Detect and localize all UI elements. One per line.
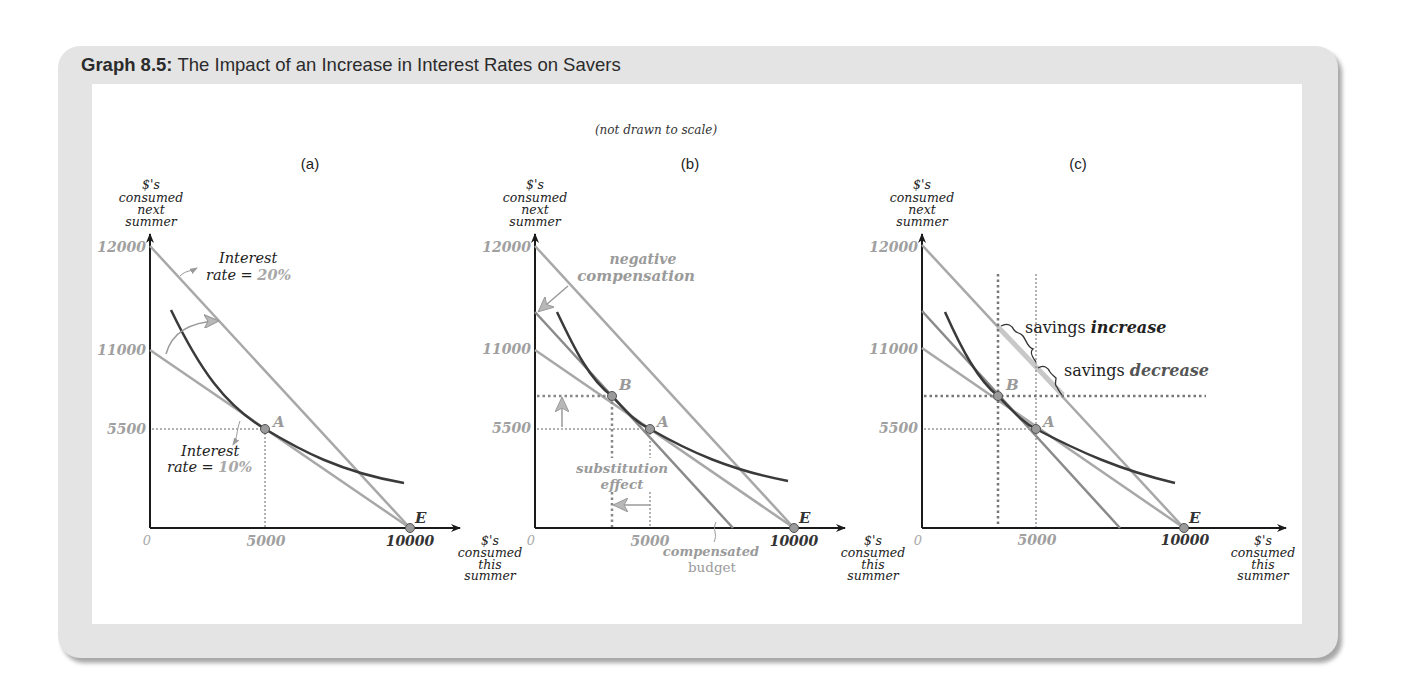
- y-tick: 12000: [97, 239, 146, 255]
- budget-line-10pct: [535, 350, 794, 528]
- annotation-value: 10%: [218, 458, 252, 475]
- leader-line: [180, 268, 197, 276]
- point-e: [406, 524, 415, 533]
- y-tick: 5500: [107, 421, 146, 437]
- y-tick: 11000: [482, 341, 531, 357]
- annotation-substitution: substitution: [576, 460, 668, 476]
- annotation-prefix: savings: [1064, 361, 1130, 380]
- y-axis-label-line: summer: [896, 214, 949, 229]
- point-b-label: B: [618, 376, 632, 394]
- annotation-word: decrease: [1130, 361, 1209, 380]
- point-b: [994, 392, 1003, 401]
- y-tick: 5500: [879, 420, 918, 436]
- not-to-scale-note: (not drawn to scale): [595, 123, 717, 137]
- budget-line-20pct: [150, 246, 410, 528]
- leader-line: [233, 421, 240, 445]
- budget-line-20pct: [535, 246, 794, 528]
- annotation-effect: effect: [601, 476, 645, 492]
- point-a-label: A: [1041, 413, 1055, 431]
- annotation-budget: budget: [688, 559, 737, 575]
- origin-label: 0: [527, 533, 535, 548]
- point-a-label: A: [655, 413, 669, 431]
- origin-label: 0: [143, 533, 151, 548]
- annotation-savings-increase: savings increase: [1025, 318, 1166, 337]
- annotation-rate-10-line1: Interest: [180, 443, 239, 459]
- panel-c: (c) $'s consumed next summer 12000 11000…: [869, 155, 1295, 583]
- x-tick: 5000: [247, 533, 286, 549]
- annotation-rate-20-line1: Interest: [218, 250, 277, 266]
- annotation-negative: negative: [610, 251, 677, 267]
- y-tick: 11000: [97, 342, 146, 358]
- annotation-word: increase: [1091, 318, 1167, 337]
- panel-a: (a) $'s consumed next summer 12000 11000…: [97, 155, 522, 583]
- y-tick: 12000: [869, 239, 918, 255]
- point-b: [608, 392, 617, 401]
- x-tick: 10000: [386, 533, 435, 549]
- point-a: [1032, 425, 1041, 434]
- annotation-prefix: rate =: [206, 267, 257, 283]
- annotation-value: 20%: [256, 266, 291, 283]
- point-e-label: E: [798, 509, 811, 527]
- x-tick: 10000: [1161, 532, 1210, 548]
- panel-b: (b) $'s consumed next summer 12000 11000…: [482, 155, 905, 583]
- annotation-rate-20-line2: rate = 20%: [206, 266, 292, 283]
- x-tick: 10000: [770, 533, 819, 549]
- annotation-compensation: compensation: [577, 267, 695, 285]
- point-a: [261, 425, 270, 434]
- annotation-savings-decrease: savings decrease: [1064, 361, 1209, 380]
- panel-label: (b): [681, 155, 699, 172]
- point-e-label: E: [1188, 509, 1201, 527]
- x-tick: 5000: [1018, 532, 1057, 548]
- panel-label: (c): [1069, 155, 1087, 172]
- y-tick: 12000: [482, 239, 531, 255]
- panel-label: (a): [301, 155, 319, 172]
- indifference-curve: [945, 312, 1175, 483]
- x-axis-label-line: summer: [847, 568, 900, 583]
- charts-canvas: (not drawn to scale) (a) $'s consumed ne…: [0, 0, 1402, 689]
- annotation-prefix: savings: [1025, 318, 1091, 337]
- point-b-label: B: [1005, 376, 1019, 394]
- x-axis-label-line: summer: [1237, 568, 1290, 583]
- annotation-rate-10-line2: rate = 10%: [167, 458, 253, 475]
- y-axis-label-line: summer: [509, 214, 562, 229]
- origin-label: 0: [914, 533, 922, 548]
- point-a: [646, 425, 655, 434]
- y-tick: 11000: [869, 341, 918, 357]
- annotation-prefix: rate =: [167, 459, 218, 475]
- negative-compensation-arrow-icon: [539, 286, 568, 311]
- point-e-label: E: [414, 509, 427, 527]
- x-axis-label-line: summer: [464, 568, 517, 583]
- annotation-compensated: compensated: [663, 544, 759, 559]
- leader-line: [714, 522, 716, 542]
- point-a-label: A: [271, 413, 285, 431]
- y-axis-label-line: summer: [125, 214, 178, 229]
- y-tick: 5500: [492, 420, 531, 436]
- point-e: [790, 524, 799, 533]
- point-e: [1180, 524, 1189, 533]
